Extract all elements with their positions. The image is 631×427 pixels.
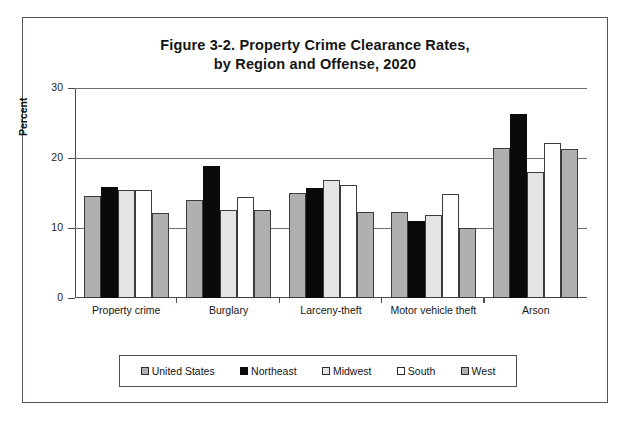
bar: [442, 194, 459, 298]
bar: [323, 180, 340, 298]
bar: [459, 228, 476, 298]
chart-legend: United StatesNortheastMidwestSouthWest: [119, 355, 517, 387]
legend-label: Northeast: [251, 365, 297, 377]
bar: [118, 190, 135, 299]
y-tick-mark-10: [68, 228, 75, 229]
bar: [237, 197, 254, 299]
bar-group: [177, 88, 279, 298]
bar: [408, 221, 425, 298]
bar: [186, 200, 203, 298]
figure-title-line-1: Figure 3-2. Property Crime Clearance Rat…: [160, 37, 469, 53]
bar: [220, 210, 237, 298]
x-axis-label-burglary: Burglary: [177, 304, 279, 316]
bar-group: [485, 88, 587, 298]
legend-swatch-icon: [397, 367, 405, 375]
x-axis-label-larceny-theft: Larceny-theft: [280, 304, 382, 316]
bar: [152, 213, 169, 298]
x-axis-group-separator: [176, 298, 177, 303]
y-tick-mark-0: [68, 298, 75, 299]
x-axis-label-arson: Arson: [485, 304, 587, 316]
legend-label: South: [408, 365, 435, 377]
bar: [527, 172, 544, 298]
y-tick-label-10: 10: [37, 221, 63, 233]
bar: [289, 193, 306, 298]
legend-item-northeast[interactable]: Northeast: [240, 365, 297, 377]
legend-label: Midwest: [333, 365, 372, 377]
y-tick-label-0: 0: [37, 291, 63, 303]
legend-label: West: [472, 365, 496, 377]
legend-item-west[interactable]: West: [461, 365, 496, 377]
bar: [306, 188, 323, 298]
bar: [203, 166, 220, 298]
legend-label: United States: [152, 365, 215, 377]
y-tick-mark-20: [68, 158, 75, 159]
figure-title-line-2: by Region and Offense, 2020: [23, 55, 607, 74]
y-tick-label-20: 20: [37, 151, 63, 163]
legend-swatch-icon: [141, 367, 149, 375]
bar-series-container: [75, 88, 587, 298]
bar-group: [280, 88, 382, 298]
bar: [254, 210, 271, 298]
plot-area: 0102030 Property crimeBurglaryLarceny-th…: [75, 88, 587, 298]
bar: [425, 215, 442, 298]
bar: [544, 143, 561, 298]
figure-frame: Figure 3-2. Property Crime Clearance Rat…: [22, 17, 608, 403]
bar: [357, 212, 374, 298]
x-axis-group-separator: [279, 298, 280, 303]
bar: [510, 114, 527, 298]
figure-title: Figure 3-2. Property Crime Clearance Rat…: [23, 36, 607, 74]
legend-item-south[interactable]: South: [397, 365, 435, 377]
legend-item-united-states[interactable]: United States: [141, 365, 215, 377]
y-tick-mark-30: [68, 88, 75, 89]
bar: [561, 149, 578, 298]
x-axis-group-separator: [381, 298, 382, 303]
legend-swatch-icon: [461, 367, 469, 375]
page-top-text-fragment: [0, 0, 631, 12]
bar: [84, 196, 101, 298]
legend-item-midwest[interactable]: Midwest: [322, 365, 372, 377]
legend-swatch-icon: [240, 367, 248, 375]
x-axis-label-motor-vehicle-theft: Motor vehicle theft: [382, 304, 484, 316]
y-axis-label: Percent: [17, 97, 29, 136]
bar: [493, 148, 510, 298]
legend-swatch-icon: [322, 367, 330, 375]
x-axis-group-separator: [483, 298, 484, 303]
bar-group: [75, 88, 177, 298]
x-axis-label-property-crime: Property crime: [75, 304, 177, 316]
y-tick-label-30: 30: [37, 81, 63, 93]
bar: [391, 212, 408, 298]
bar-group: [382, 88, 484, 298]
bar: [101, 187, 118, 298]
bar: [340, 185, 357, 298]
bar: [135, 190, 152, 299]
